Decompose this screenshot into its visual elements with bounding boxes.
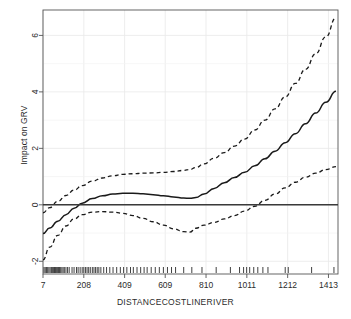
- svg-text:409: 409: [118, 280, 132, 290]
- svg-text:1011: 1011: [238, 280, 257, 290]
- svg-text:4: 4: [30, 89, 40, 94]
- svg-text:1413: 1413: [319, 280, 338, 290]
- svg-text:208: 208: [77, 280, 91, 290]
- svg-text:2: 2: [30, 146, 40, 151]
- gridlines: [43, 10, 338, 274]
- rug-marks: [44, 267, 334, 273]
- svg-text:-2: -2: [30, 257, 40, 265]
- svg-text:7: 7: [41, 280, 46, 290]
- svg-text:810: 810: [199, 280, 213, 290]
- chart-figure: Impact on GRV DISTANCECOSTLINERIVER -202…: [0, 0, 351, 319]
- svg-text:1212: 1212: [278, 280, 297, 290]
- x-axis-ticks: 7208409609810101112121413: [41, 274, 339, 290]
- svg-text:609: 609: [158, 280, 172, 290]
- y-axis-ticks: -20246: [30, 33, 43, 265]
- svg-text:0: 0: [30, 202, 40, 207]
- axis-box: [43, 10, 338, 274]
- data-series: [43, 18, 338, 260]
- plot-area: -20246 7208409609810101112121413: [0, 0, 351, 319]
- svg-text:6: 6: [30, 33, 40, 38]
